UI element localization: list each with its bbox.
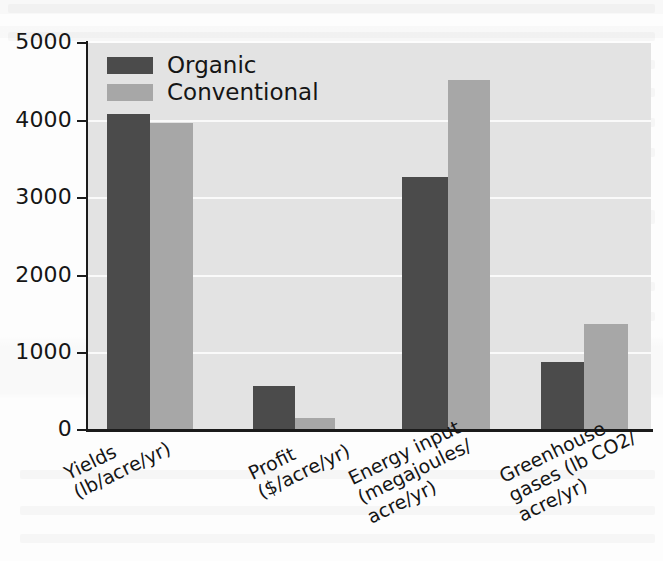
y-tick-mark-2000 (77, 275, 87, 277)
legend-item-organic: Organic (107, 52, 319, 79)
y-tick-mark-3000 (77, 197, 87, 199)
y-tick-mark-4000 (77, 120, 87, 122)
legend-item-conventional: Conventional (107, 79, 319, 106)
y-tick-mark-5000 (77, 42, 87, 44)
bar-yields-conventional (150, 123, 193, 430)
y-tick-mark-1000 (77, 352, 87, 354)
y-tick-mark-0 (77, 429, 87, 431)
gridline-4000 (88, 120, 651, 122)
legend-swatch-conventional (107, 84, 153, 101)
y-tick-label-2000: 2000 (12, 264, 72, 286)
legend-label-organic: Organic (167, 54, 256, 77)
y-axis-line (86, 41, 88, 432)
bar-greenhouse-organic (541, 362, 584, 430)
y-tick-label-5000: 5000 (12, 31, 72, 53)
grouped-bar-chart: 5000 4000 3000 2000 1000 0 Organic Conve… (0, 0, 663, 561)
y-tick-label-1000: 1000 (12, 341, 72, 363)
y-tick-label-0: 0 (12, 418, 72, 440)
bar-energy-organic (402, 177, 448, 430)
x-category-label-profit: Profit ($/acre/yr) (245, 421, 353, 503)
legend-label-conventional: Conventional (167, 81, 319, 104)
bar-yields-organic (107, 114, 150, 430)
legend-swatch-organic (107, 57, 153, 74)
x-category-label-energy-input: Energy input (megajoules/ acre/yr) (345, 416, 484, 527)
bar-profit-organic (253, 386, 295, 430)
y-tick-label-3000: 3000 (12, 186, 72, 208)
bar-energy-conventional (448, 80, 490, 430)
y-tick-label-4000: 4000 (12, 109, 72, 131)
legend: Organic Conventional (107, 52, 319, 106)
